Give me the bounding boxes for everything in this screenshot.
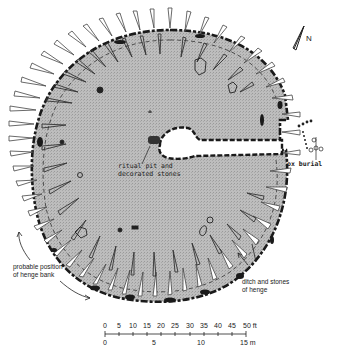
scale-m-15: 15 m	[240, 339, 256, 346]
ritual-pit-label: ritual pit and decorated stones	[118, 162, 181, 178]
ditch-label-line1: ditch and stones	[242, 278, 289, 286]
scale-m-10: 10	[197, 339, 205, 346]
henge-bank-label-line2: of henge bank	[13, 271, 63, 279]
ritual-pit-label-line1: ritual pit and	[118, 162, 181, 170]
scale-m-5: 5	[152, 339, 156, 346]
ox-burial	[298, 120, 323, 160]
scale-ft-15: 15	[143, 322, 151, 329]
scale-ft-35: 35	[200, 322, 208, 329]
north-label: N	[306, 35, 312, 43]
scale-ft-20: 20	[157, 322, 165, 329]
henge-bank-label-line1: probable position	[13, 263, 63, 271]
ritual-pit-label-line2: decorated stones	[118, 170, 181, 178]
scale-ft-0: 0	[103, 322, 107, 329]
ox-burial-label: ox burial	[287, 160, 322, 168]
scale-ft-5: 5	[117, 322, 121, 329]
scale-ft-10: 10	[129, 322, 137, 329]
scale-bar	[105, 331, 246, 337]
north-arrow-icon	[293, 26, 304, 50]
scale-m-0: 0	[103, 339, 107, 346]
henge-site-plan	[0, 0, 341, 356]
scale-ft-25: 25	[171, 322, 179, 329]
henge-bank-label: probable position of henge bank	[13, 263, 63, 279]
scale-ft-45: 45	[228, 322, 236, 329]
scale-ft-40: 40	[214, 322, 222, 329]
ditch-label: ditch and stones of henge	[242, 278, 289, 294]
scale-ft-30: 30	[186, 322, 194, 329]
ritual-pit	[148, 136, 160, 144]
scale-ft-50: 50 ft	[243, 322, 257, 329]
ditch-label-line2: of henge	[242, 286, 289, 294]
